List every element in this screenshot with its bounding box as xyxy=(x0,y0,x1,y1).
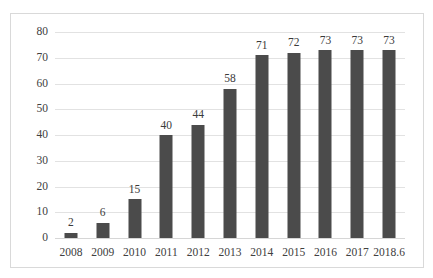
x-axis-label-2018.6: 2018.6 xyxy=(373,247,405,259)
bar-group-2014: 712014 xyxy=(246,32,278,238)
y-axis-label-30: 30 xyxy=(37,155,49,167)
bar-2013[interactable] xyxy=(223,89,236,238)
y-axis-label-10: 10 xyxy=(37,207,49,219)
y-axis-label-60: 60 xyxy=(37,78,49,90)
y-axis-label-50: 50 xyxy=(37,104,49,116)
y-axis-label-80: 80 xyxy=(37,26,49,38)
x-axis-label-2013: 2013 xyxy=(218,247,241,259)
bar-group-2009: 62009 xyxy=(87,32,119,238)
bar-2017[interactable] xyxy=(351,50,364,238)
y-axis-label-40: 40 xyxy=(37,129,49,141)
bar-group-2016: 732016 xyxy=(310,32,342,238)
x-axis-label-2008: 2008 xyxy=(59,247,82,259)
x-axis-label-2010: 2010 xyxy=(123,247,146,259)
x-axis-label-2016: 2016 xyxy=(314,247,337,259)
x-axis-label-2011: 2011 xyxy=(155,247,178,259)
bar-group-2012: 442012 xyxy=(182,32,214,238)
bar-series: 2200862009152010402011442012582013712014… xyxy=(55,32,405,238)
bar-value-label-2017: 73 xyxy=(352,35,364,47)
bar-value-label-2012: 44 xyxy=(192,109,204,121)
bar-value-label-2014: 71 xyxy=(256,40,268,52)
bar-value-label-2009: 6 xyxy=(100,207,106,219)
x-axis-label-2009: 2009 xyxy=(91,247,114,259)
bar-group-2018.6: 732018.6 xyxy=(373,32,405,238)
bar-group-2015: 722015 xyxy=(278,32,310,238)
bar-2011[interactable] xyxy=(160,135,173,238)
bar-value-label-2013: 58 xyxy=(224,73,236,85)
x-axis-label-2015: 2015 xyxy=(282,247,305,259)
gridline-0 xyxy=(55,238,405,239)
bar-group-2011: 402011 xyxy=(150,32,182,238)
bar-2016[interactable] xyxy=(319,50,332,238)
y-axis-label-0: 0 xyxy=(42,232,48,244)
x-axis-label-2012: 2012 xyxy=(187,247,210,259)
bar-2015[interactable] xyxy=(287,53,300,238)
y-axis-label-20: 20 xyxy=(37,181,49,193)
bar-group-2017: 732017 xyxy=(341,32,373,238)
bar-value-label-2016: 73 xyxy=(320,35,332,47)
chart-frame: 01020304050607080 2200862009152010402011… xyxy=(10,13,424,268)
bar-value-label-2018.6: 73 xyxy=(383,35,395,47)
bar-group-2008: 22008 xyxy=(55,32,87,238)
plot-area: 01020304050607080 2200862009152010402011… xyxy=(55,32,405,238)
bar-value-label-2008: 2 xyxy=(68,217,74,229)
bar-value-label-2010: 15 xyxy=(129,184,141,196)
bar-group-2010: 152010 xyxy=(119,32,151,238)
bar-group-2013: 582013 xyxy=(214,32,246,238)
bar-value-label-2011: 40 xyxy=(161,120,173,132)
bar-2014[interactable] xyxy=(255,55,268,238)
bar-2009[interactable] xyxy=(96,223,109,238)
bar-2008[interactable] xyxy=(64,233,77,238)
bar-2012[interactable] xyxy=(192,125,205,238)
x-axis-label-2014: 2014 xyxy=(250,247,273,259)
bar-2018.6[interactable] xyxy=(383,50,396,238)
x-axis-label-2017: 2017 xyxy=(346,247,369,259)
y-axis-label-70: 70 xyxy=(37,52,49,64)
bar-2010[interactable] xyxy=(128,199,141,238)
bar-value-label-2015: 72 xyxy=(288,37,300,49)
